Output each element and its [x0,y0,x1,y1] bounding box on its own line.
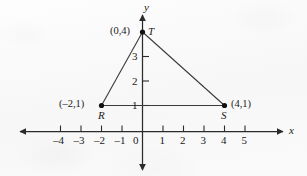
x-tick-label--1: –1 [115,135,126,146]
x-tick-label--4: –4 [53,135,64,146]
point-r [99,103,104,108]
point-t-coordinate-label: (0,4) [110,26,130,37]
point-t-name-label: T [148,26,154,37]
y-tick-label-2: 2 [132,76,138,87]
x-tick-label-1: 1 [160,135,166,146]
point-s [222,103,227,108]
point-r-coordinate-label: (–2,1) [59,99,84,110]
x-tick-label-5: 5 [242,135,248,146]
x-tick-label--2: –2 [94,135,105,146]
point-r-name-label: R [98,110,105,121]
point-s-coordinate-label: (4,1) [231,99,251,110]
y-tick-label-1: 1 [132,100,138,111]
edge-r-t [102,32,143,106]
point-t [140,29,145,34]
triangle-rst [102,32,225,106]
edge-t-s [143,32,225,106]
x-tick-label--3: –3 [74,135,85,146]
vertex-dots [99,29,227,108]
x-tick-label-4: 4 [221,135,227,146]
x-tick-label-2: 2 [180,135,186,146]
origin-label: 0 [133,135,139,146]
point-s-name-label: S [221,110,227,121]
x-axis-label: x [289,125,294,136]
y-axis-label: y [144,2,149,13]
x-tick-label-3: 3 [201,135,207,146]
figure-canvas: x y 0 –4 –3 –2 –1 1 2 3 4 5 1 2 3 (0,4) … [0,0,307,176]
x-axis-ticks [61,126,246,132]
y-axis-ticks [143,57,150,106]
y-tick-label-3: 3 [132,51,138,62]
